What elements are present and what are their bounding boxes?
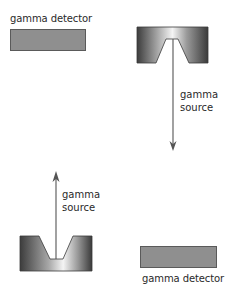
source-label-line1: gamma (62, 188, 100, 201)
source-label-line2: source (62, 201, 100, 214)
gamma-detector-bottom-right (140, 246, 217, 268)
detector-label-top-left: gamma detector (10, 13, 92, 25)
arrow-up-icon (53, 171, 60, 259)
arrow-down-icon (170, 39, 177, 151)
source-label-top-right: gamma source (180, 88, 218, 114)
source-label-line1: gamma (180, 88, 218, 101)
detector-label-bottom-right: gamma detector (142, 273, 224, 285)
source-label-bottom-left: gamma source (62, 188, 100, 214)
gamma-detector-top-left (10, 29, 86, 51)
source-label-line2: source (180, 101, 218, 114)
